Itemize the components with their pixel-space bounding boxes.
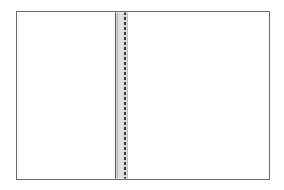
spine-rule-line xyxy=(115,12,116,179)
right-page: Right page xyxy=(145,12,269,179)
spine-stitch-line xyxy=(124,12,126,179)
book-figure: Line drawing of an open blank book showi… xyxy=(0,0,284,190)
right-page-label: Right page xyxy=(144,11,145,12)
book-outline: Left page Right page Spine xyxy=(16,11,270,180)
book-spine: Spine xyxy=(114,12,129,179)
left-page-label: Left page xyxy=(16,11,17,12)
spine-inner-rule-line xyxy=(117,12,118,179)
spine-edge-line xyxy=(127,12,128,179)
spine-label: Spine xyxy=(113,11,114,12)
left-page: Left page xyxy=(17,12,155,179)
